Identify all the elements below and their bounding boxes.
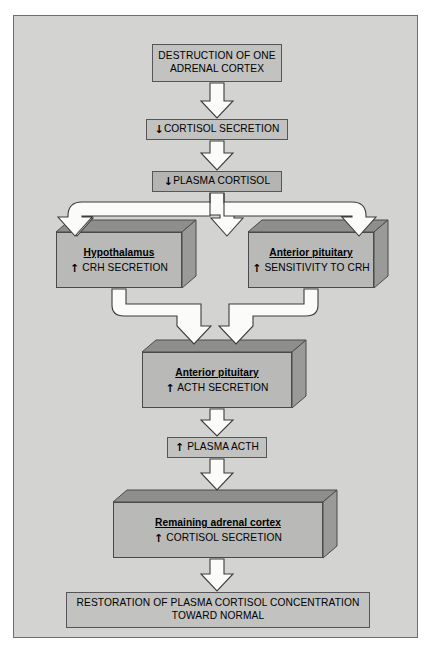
node-destruction-line1: DESTRUCTION OF ONE [158, 50, 275, 63]
node-plasma-acth-up: ↑ PLASMA ACTH [167, 437, 267, 458]
anterior-pituitary-acth-side-face [292, 340, 306, 408]
node-hypothalamus: Hypothalamus ↑ CRH SECRETION [56, 232, 182, 288]
node-restoration-line1: RESTORATION OF PLASMA CORTISOL CONCENTRA… [77, 597, 360, 610]
node-restoration-line2: TOWARD NORMAL [172, 610, 264, 623]
node-destruction: DESTRUCTION OF ONE ADRENAL CORTEX [152, 44, 282, 82]
node-remaining-adrenal-cortex: Remaining adrenal cortex ↑ CORTISOL SECR… [113, 502, 323, 558]
down-arrow-icon: ↓ [155, 123, 164, 136]
node-plasma-cortisol-down: ↓PLASMA CORTISOL [152, 171, 282, 192]
node-hypothalamus-title: Hypothalamus [84, 245, 155, 260]
node-plasma-cortisol-down-line: ↓PLASMA CORTISOL [164, 175, 270, 188]
node-cortisol-secretion-down-line: ↓CORTISOL SECRETION [155, 123, 280, 136]
hypothalamus-top-face [56, 220, 196, 232]
up-arrow-icon: ↑ [70, 262, 79, 275]
node-hypothalamus-text: CRH SECRETION [82, 262, 168, 273]
node-restoration: RESTORATION OF PLASMA CORTISOL CONCENTRA… [66, 592, 370, 628]
node-plasma-cortisol-down-text: PLASMA CORTISOL [173, 175, 270, 186]
node-anterior-pituitary-sensitivity-text: SENSITIVITY TO CRH [264, 262, 369, 273]
up-arrow-icon: ↑ [154, 532, 163, 545]
node-remaining-adrenal-cortex-body: ↑ CORTISOL SECRETION [154, 530, 282, 545]
node-anterior-pituitary-acth-text: ACTH SECRETION [177, 382, 268, 393]
anterior-pituitary-sensitivity-top-face [248, 220, 388, 232]
hypothalamus-side-face [182, 220, 196, 288]
node-anterior-pituitary-acth-body: ↑ ACTH SECRETION [165, 380, 268, 395]
up-arrow-icon: ↑ [175, 441, 184, 454]
node-remaining-adrenal-cortex-title: Remaining adrenal cortex [155, 515, 281, 530]
node-plasma-acth-up-line: ↑ PLASMA ACTH [175, 441, 259, 454]
node-plasma-acth-up-text: PLASMA ACTH [187, 441, 259, 452]
remaining-adrenal-cortex-top-face [113, 490, 337, 502]
node-hypothalamus-body: ↑ CRH SECRETION [70, 260, 168, 275]
up-arrow-icon: ↑ [252, 262, 261, 275]
anterior-pituitary-sensitivity-side-face [374, 220, 388, 288]
node-destruction-line2: ADRENAL CORTEX [170, 63, 264, 76]
down-arrow-icon: ↓ [164, 175, 173, 188]
remaining-adrenal-cortex-side-face [323, 490, 337, 558]
node-cortisol-secretion-down-text: CORTISOL SECRETION [164, 123, 280, 134]
node-anterior-pituitary-sensitivity-body: ↑ SENSITIVITY TO CRH [252, 260, 370, 275]
up-arrow-icon: ↑ [165, 382, 174, 395]
node-anterior-pituitary-sensitivity: Anterior pituitary ↑ SENSITIVITY TO CRH [248, 232, 374, 288]
node-anterior-pituitary-acth: Anterior pituitary ↑ ACTH SECRETION [142, 352, 292, 408]
anterior-pituitary-acth-top-face [142, 340, 306, 352]
node-remaining-adrenal-cortex-text: CORTISOL SECRETION [166, 532, 282, 543]
node-cortisol-secretion-down: ↓CORTISOL SECRETION [146, 119, 288, 140]
flowchart-figure: DESTRUCTION OF ONE ADRENAL CORTEX ↓CORTI… [0, 0, 436, 656]
node-anterior-pituitary-acth-title: Anterior pituitary [175, 365, 259, 380]
node-anterior-pituitary-sensitivity-title: Anterior pituitary [269, 245, 353, 260]
